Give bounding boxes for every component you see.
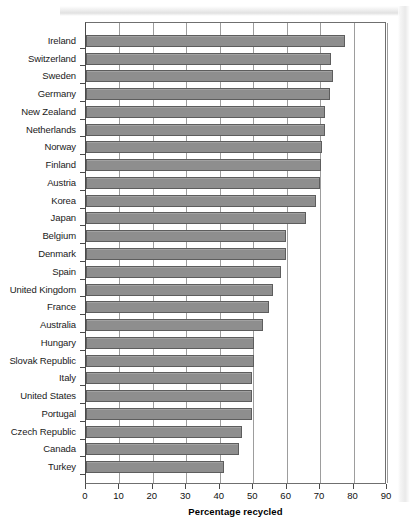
y-axis-label-row: Finland bbox=[0, 155, 85, 173]
bar bbox=[86, 177, 320, 189]
bar bbox=[86, 284, 273, 296]
scan-artifact-top bbox=[60, 6, 400, 16]
x-axis-tick-label-70: 70 bbox=[314, 490, 325, 501]
bar-row bbox=[86, 156, 385, 174]
y-axis-label-row: Ireland bbox=[0, 31, 85, 49]
bar-row bbox=[86, 245, 385, 263]
y-axis-label-row: Spain bbox=[0, 262, 85, 280]
y-axis-label-row: Switzerland bbox=[0, 49, 85, 67]
y-axis-label-france: France bbox=[47, 301, 76, 312]
y-axis-label-row: Sweden bbox=[0, 66, 85, 84]
bar bbox=[86, 230, 286, 242]
bar bbox=[86, 159, 321, 171]
y-axis-label-row: Belgium bbox=[0, 226, 85, 244]
y-axis-label-united-states: United States bbox=[20, 390, 76, 401]
bar-row bbox=[86, 370, 385, 388]
y-axis-label-australia: Australia bbox=[40, 319, 76, 330]
bar bbox=[86, 35, 345, 47]
x-axis-tick-label-10: 10 bbox=[113, 490, 124, 501]
y-axis-label-row: Czech Republic bbox=[0, 422, 85, 440]
bar bbox=[86, 390, 252, 402]
bar-row bbox=[86, 298, 385, 316]
y-axis-label-row: Norway bbox=[0, 138, 85, 156]
y-axis-label-slovak-republic: Slovak Republic bbox=[9, 354, 76, 365]
bar-row bbox=[86, 210, 385, 228]
bar bbox=[86, 372, 252, 384]
bar-row bbox=[86, 121, 385, 139]
y-axis-label-row: Japan bbox=[0, 209, 85, 227]
y-axis-label-row: United States bbox=[0, 386, 85, 404]
x-axis-tick-40 bbox=[219, 484, 220, 489]
x-axis-tick-0 bbox=[85, 484, 86, 489]
y-axis-label-sweden: Sweden bbox=[42, 70, 76, 81]
x-axis-tick-60 bbox=[286, 484, 287, 489]
scan-artifact-right bbox=[398, 6, 410, 502]
bar-row bbox=[86, 316, 385, 334]
bar-row bbox=[86, 85, 385, 103]
bar bbox=[86, 461, 224, 473]
y-axis-label-row: Hungary bbox=[0, 333, 85, 351]
chart-figure: IrelandSwitzerlandSwedenGermanyNew Zeala… bbox=[0, 0, 410, 528]
y-axis-label-italy: Italy bbox=[59, 372, 76, 383]
x-axis-title: Percentage recycled bbox=[85, 506, 386, 517]
x-axis-tick-30 bbox=[185, 484, 186, 489]
bar-row bbox=[86, 423, 385, 441]
bar bbox=[86, 301, 269, 313]
bar-row bbox=[86, 67, 385, 85]
y-axis-label-row: Italy bbox=[0, 369, 85, 387]
bar bbox=[86, 53, 331, 65]
y-axis-label-row: France bbox=[0, 297, 85, 315]
y-axis-label-portugal: Portugal bbox=[41, 407, 76, 418]
y-axis-label-belgium: Belgium bbox=[42, 230, 76, 241]
y-axis-label-row: New Zealand bbox=[0, 102, 85, 120]
x-axis-tick-label-80: 80 bbox=[347, 490, 358, 501]
x-axis-tick-80 bbox=[353, 484, 354, 489]
bar-row bbox=[86, 441, 385, 459]
y-axis-category-labels: IrelandSwitzerlandSwedenGermanyNew Zeala… bbox=[0, 22, 85, 484]
y-axis-label-korea: Korea bbox=[51, 194, 76, 205]
bar bbox=[86, 408, 252, 420]
y-axis-label-row: Denmark bbox=[0, 244, 85, 262]
y-axis-label-austria: Austria bbox=[47, 176, 76, 187]
x-axis-tick-10 bbox=[118, 484, 119, 489]
bar bbox=[86, 195, 316, 207]
x-axis-tick-label-30: 30 bbox=[180, 490, 191, 501]
bar bbox=[86, 426, 242, 438]
y-axis-label-row: Australia bbox=[0, 315, 85, 333]
bar bbox=[86, 266, 281, 278]
bar-rows bbox=[86, 23, 385, 483]
bar-row bbox=[86, 32, 385, 50]
y-axis-label-canada: Canada bbox=[43, 443, 76, 454]
x-axis-tick-label-20: 20 bbox=[147, 490, 158, 501]
x-axis-tick-50 bbox=[252, 484, 253, 489]
y-axis-label-spain: Spain bbox=[52, 265, 76, 276]
bar-row bbox=[86, 192, 385, 210]
bar bbox=[86, 106, 325, 118]
bar-row bbox=[86, 103, 385, 121]
bar-row bbox=[86, 227, 385, 245]
y-axis-label-norway: Norway bbox=[44, 141, 76, 152]
bar-row bbox=[86, 50, 385, 68]
x-axis-tick-70 bbox=[319, 484, 320, 489]
bar bbox=[86, 124, 325, 136]
y-axis-label-japan: Japan bbox=[51, 212, 76, 223]
bar-row bbox=[86, 458, 385, 476]
y-axis-label-hungary: Hungary bbox=[41, 336, 76, 347]
bar-row bbox=[86, 387, 385, 405]
bar-row bbox=[86, 334, 385, 352]
y-axis-label-netherlands: Netherlands bbox=[26, 123, 76, 134]
bar bbox=[86, 88, 330, 100]
y-axis-label-row: Netherlands bbox=[0, 120, 85, 138]
y-axis-label-row: Canada bbox=[0, 440, 85, 458]
bar-row bbox=[86, 174, 385, 192]
bar-row bbox=[86, 281, 385, 299]
bar bbox=[86, 248, 286, 260]
bar bbox=[86, 355, 254, 367]
y-axis-label-denmark: Denmark bbox=[38, 247, 76, 258]
x-axis-tick-label-50: 50 bbox=[247, 490, 258, 501]
bar bbox=[86, 70, 333, 82]
x-axis-tick-label-60: 60 bbox=[280, 490, 291, 501]
y-axis-label-germany: Germany bbox=[38, 88, 76, 99]
y-axis-label-new-zealand: New Zealand bbox=[21, 105, 76, 116]
bar bbox=[86, 443, 239, 455]
